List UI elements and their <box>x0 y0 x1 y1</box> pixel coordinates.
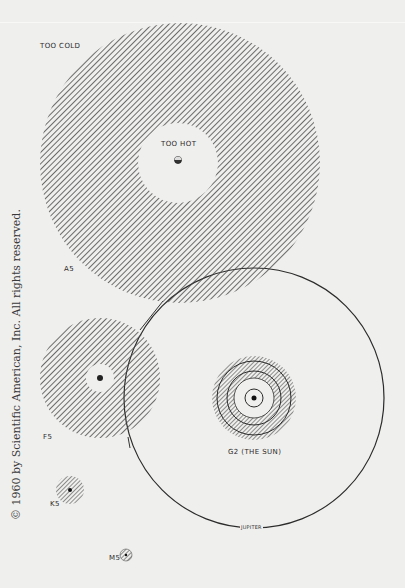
too-hot-label: TOO HOT <box>161 140 196 148</box>
g2-star <box>252 396 257 401</box>
m5-star <box>125 554 127 556</box>
k5-star <box>68 488 72 492</box>
copyright-notice: © 1960 by Scientific American, Inc. All … <box>10 209 23 520</box>
k5-label: K5 <box>50 500 60 508</box>
too-cold-label: TOO COLD <box>40 42 80 50</box>
m5-label: M5 <box>109 554 120 562</box>
a5-label: A5 <box>64 265 74 273</box>
jupiter-label: JUPITER <box>240 524 263 530</box>
g2-sun-label: G2 (THE SUN) <box>228 448 281 456</box>
f5-label: F5 <box>43 433 52 441</box>
habitable-zone-diagram <box>0 0 405 588</box>
